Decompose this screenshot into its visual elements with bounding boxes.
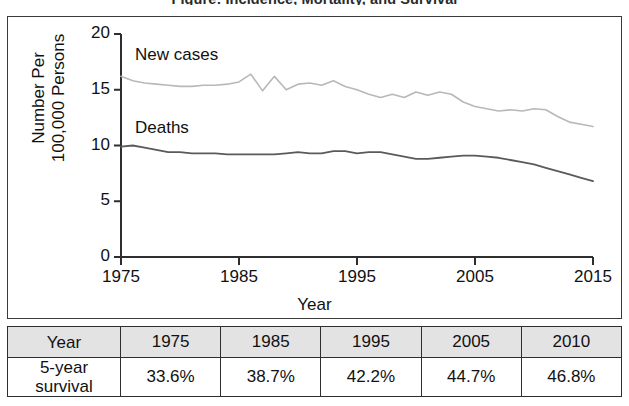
x-tick-label-2005: 2005 [445, 267, 505, 287]
y-axis-title: Number Per100,000 Persons [29, 0, 71, 198]
table-header-cell-1985: 1985 [221, 327, 321, 358]
y-axis-title-line2: 100,000 Persons [49, 34, 68, 163]
chart-panel: Number Per100,000 Persons Year 0 5 10 15… [7, 16, 622, 319]
table-header-cell-2010: 2010 [521, 327, 621, 358]
y-tick-label-15: 15 [76, 79, 110, 99]
table-row-label: 5-yearsurvival [8, 358, 121, 397]
table-cell-survival-1985: 38.7% [221, 358, 321, 397]
y-tick-label-20: 20 [76, 23, 110, 43]
x-tick-label-1985: 1985 [209, 267, 269, 287]
y-tick-label-0: 0 [76, 246, 110, 266]
table-row-label-line2: survival [8, 377, 120, 396]
table-row: 5-yearsurvival 33.6% 38.7% 42.2% 44.7% 4… [8, 358, 622, 397]
table-cell-survival-2010: 46.8% [521, 358, 621, 397]
table-header-cell-year: Year [8, 327, 121, 358]
table-cell-survival-2005: 44.7% [421, 358, 521, 397]
series-label-deaths: Deaths [135, 118, 189, 138]
figure-title: Figure: Incidence, Mortality, and Surviv… [0, 0, 629, 5]
table-cell-survival-1975: 33.6% [121, 358, 221, 397]
table-header-cell-1995: 1995 [321, 327, 421, 358]
figure-root: Figure: Incidence, Mortality, and Surviv… [0, 0, 629, 406]
table-header-row: Year 1975 1985 1995 2005 2010 [8, 327, 622, 358]
survival-table: Year 1975 1985 1995 2005 2010 5-yearsurv… [7, 326, 622, 397]
table-header-cell-2005: 2005 [421, 327, 521, 358]
y-axis-title-line1: Number Per [29, 52, 48, 144]
x-axis-title: Year [8, 295, 621, 315]
y-tick-label-10: 10 [76, 135, 110, 155]
x-tick-label-1975: 1975 [91, 267, 151, 287]
table-cell-survival-1995: 42.2% [321, 358, 421, 397]
y-tick-label-5: 5 [76, 190, 110, 210]
table-row-label-line1: 5-year [8, 358, 120, 377]
x-tick-label-2015: 2015 [563, 267, 623, 287]
x-tick-label-1995: 1995 [327, 267, 387, 287]
table-header-cell-1975: 1975 [121, 327, 221, 358]
series-label-new-cases: New cases [135, 45, 218, 65]
